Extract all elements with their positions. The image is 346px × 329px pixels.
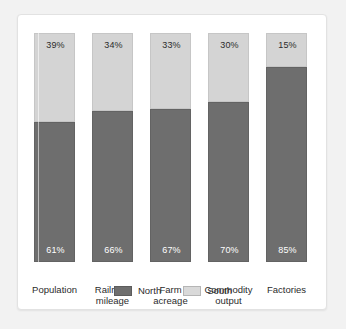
chart-legend: North South xyxy=(18,285,328,296)
bar-stack: 33% 67% xyxy=(150,33,191,262)
category-label-line2: output xyxy=(196,295,261,306)
bar-group-farm-acreage[interactable]: 33% 67% Farm acreage xyxy=(150,33,191,262)
bar-value-north: 66% xyxy=(93,245,134,255)
chart-plot-area: 39% 61% Population 34% 66% Ra xyxy=(18,15,328,311)
bar-value-north: 70% xyxy=(209,245,250,255)
bar-segment-south: 15% xyxy=(266,33,307,67)
category-label-line2: mileage xyxy=(80,295,145,306)
bar-value-south: 30% xyxy=(209,40,250,50)
bar-segment-north: 66% xyxy=(92,111,133,262)
bar-segment-south: 30% xyxy=(208,33,249,102)
bar-segment-north: 67% xyxy=(150,109,191,262)
bar-segment-north: 70% xyxy=(208,102,249,262)
legend-item-south[interactable]: South xyxy=(183,285,232,296)
bar-value-south: 15% xyxy=(267,40,308,50)
bar-segment-north: 61% xyxy=(34,122,75,262)
bar-value-north: 61% xyxy=(35,245,76,255)
legend-swatch-south-icon xyxy=(183,286,201,296)
bar-value-south: 34% xyxy=(93,40,134,50)
legend-label-north: North xyxy=(138,285,161,296)
bar-stack: 30% 70% xyxy=(208,33,249,262)
bar-value-south: 33% xyxy=(151,40,192,50)
bar-value-north: 85% xyxy=(267,245,308,255)
legend-label-south: South xyxy=(207,285,232,296)
bar-value-north: 67% xyxy=(151,245,192,255)
bar-segment-south: 39% xyxy=(34,33,75,122)
legend-item-north[interactable]: North xyxy=(114,285,161,296)
bar-stack: 39% 61% xyxy=(34,33,75,262)
bar-highlight-line xyxy=(38,33,39,262)
bar-group-factories[interactable]: 15% 85% Factories xyxy=(266,33,307,262)
bar-group-railroad-mileage[interactable]: 34% 66% Railroad mileage xyxy=(92,33,133,262)
bar-segment-north: 85% xyxy=(266,67,307,262)
category-label-line2: acreage xyxy=(138,295,203,306)
bar-segment-south: 33% xyxy=(150,33,191,109)
bar-value-south: 39% xyxy=(35,40,76,50)
bar-stack: 34% 66% xyxy=(92,33,133,262)
chart-card: 39% 61% Population 34% 66% Ra xyxy=(17,14,327,310)
bar-group-population[interactable]: 39% 61% Population xyxy=(34,33,75,262)
bar-stack: 15% 85% xyxy=(266,33,307,262)
bar-segment-south: 34% xyxy=(92,33,133,111)
bar-group-commodity-output[interactable]: 30% 70% Commodity output xyxy=(208,33,249,262)
legend-swatch-north-icon xyxy=(114,286,132,296)
